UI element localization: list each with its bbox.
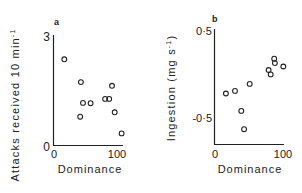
panel-a-xtick-100: 100 [108,148,126,160]
panel-a: a 3 0 0 100 Dominance Attacks received 1… [9,17,126,182]
panel-a-points [62,57,124,136]
panel-a-ytick-3: 3 [43,30,50,44]
panel-b-ytick-0.5: 0·5 [196,25,212,37]
data-point [62,57,67,62]
panel-b-xtick-100: 100 [274,148,292,160]
panel-a-ytick-0: 0 [43,140,50,154]
data-point [233,89,238,94]
data-point [247,82,252,87]
panel-b-ytick-neg0.5: -0·5 [192,112,212,124]
panel-b-label: b [212,14,218,24]
data-point [242,127,247,132]
data-point [79,80,84,85]
panel-b-x-label: Dominance [218,163,283,175]
panel-a-label: a [54,17,60,27]
panel-a-x-label: Dominance [58,163,123,175]
data-point [88,101,93,106]
data-point [78,114,83,119]
panel-b: b 0·5 -0·5 0 100 Dominance Ingestion (mg… [165,14,292,175]
data-point [119,131,124,136]
data-point [110,83,115,88]
panel-b-points [224,56,286,131]
panel-b-xtick-0: 0 [212,148,218,160]
data-point [239,109,244,114]
data-point [81,101,86,106]
panel-a-xtick-0: 0 [51,148,57,160]
data-point [268,72,273,77]
data-point [281,64,286,69]
data-point [224,91,229,96]
panel-b-y-label: Ingestion (mg s-1) [165,35,177,142]
figure: a 3 0 0 100 Dominance Attacks received 1… [0,0,302,193]
data-point [112,110,117,115]
panel-a-y-label: Attacks received 10 min-1 [9,29,21,182]
